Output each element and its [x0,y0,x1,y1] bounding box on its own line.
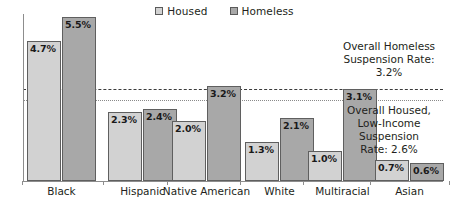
x-axis-line [23,181,443,182]
bar-native-american-homeless [207,86,241,181]
bar-value-label-hispanic-homeless: 2.4% [146,112,172,122]
bar-value-label-asian-housed: 0.7% [378,163,404,173]
x-axis-tick [370,181,371,185]
bar-black-housed [27,41,61,181]
x-axis-tick [167,181,168,185]
bar-value-label-white-homeless: 2.1% [283,121,309,131]
x-axis-tick [449,181,450,185]
bar-value-label-black-homeless: 5.5% [65,20,91,30]
annotation-homeless-line2: Suspension Rate: [331,53,447,66]
bar-value-label-asian-homeless: 0.6% [413,166,439,176]
bar-value-label-multiracial-homeless: 3.1% [346,92,372,102]
bar-black-homeless [62,17,96,181]
annotation-housed-line4: Rate: 2.6% [331,143,447,156]
bar-value-label-white-housed: 1.3% [248,145,274,155]
annotation-housed-line3: Suspension [331,130,447,143]
annotation-housed-line1: Overall Housed, [331,104,447,117]
x-axis-tick [103,181,104,185]
annotation-overall-homeless-rate: Overall Homeless Suspension Rate: 3.2% [331,40,447,79]
x-axis-tick [22,181,23,185]
annotation-homeless-line3: 3.2% [331,66,447,79]
bar-value-label-native-american-homeless: 3.2% [210,89,236,99]
annotation-housed-line2: Low-Income [331,117,447,130]
x-axis-tick [240,181,241,185]
bar-value-label-native-american-housed: 2.0% [175,124,201,134]
x-axis-tick [303,181,304,185]
bar-value-label-black-housed: 4.7% [30,44,56,54]
bar-value-label-hispanic-housed: 2.3% [111,115,137,125]
annotation-overall-housed-rate: Overall Housed, Low-Income Suspension Ra… [331,104,447,156]
x-axis-label-asian: Asian [350,186,454,198]
annotation-homeless-line1: Overall Homeless [331,40,447,53]
